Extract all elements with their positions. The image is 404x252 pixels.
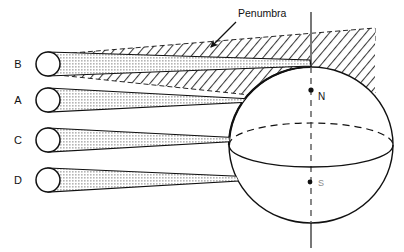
- source-circle-a: [36, 88, 60, 112]
- beam-d-cone: [48, 168, 256, 192]
- north-pole-dot: [308, 87, 313, 92]
- beam-label-d: D: [14, 174, 22, 186]
- beam-label-c: C: [14, 134, 22, 146]
- south-pole-dot: [308, 180, 313, 185]
- source-circle-c: [36, 128, 60, 152]
- source-circle-d: [36, 168, 60, 192]
- north-pole-label: N: [318, 91, 325, 102]
- beam-label-a: A: [14, 94, 22, 106]
- south-pole-label: S: [318, 178, 324, 188]
- source-circle-b: [36, 52, 60, 76]
- beam-c-cone: [48, 128, 243, 152]
- diagram-canvas: N S B A C D Penumbra: [0, 0, 404, 252]
- beam-label-b: B: [14, 58, 21, 70]
- penumbra-label: Penumbra: [238, 7, 287, 19]
- light-beam-sphere-diagram: N S B A C D Penumbra: [0, 0, 404, 252]
